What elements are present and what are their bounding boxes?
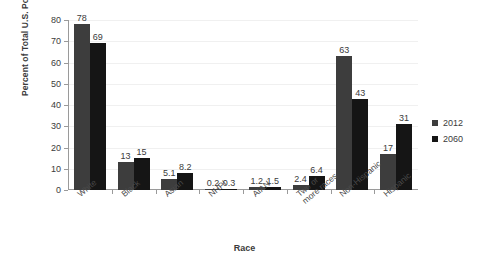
y-axis-tick-label: 40: [51, 100, 61, 110]
bar-value-label: 8.2: [179, 162, 192, 172]
legend-label: 2012: [443, 118, 463, 128]
bar-value-label: 31: [399, 113, 409, 123]
legend-swatch-icon: [432, 136, 438, 142]
y-axis-tick-label: 20: [51, 143, 61, 153]
bar-value-label: 5.1: [163, 168, 176, 178]
bar-value-label: 15: [137, 147, 147, 157]
y-axis-tick-label: 30: [51, 121, 61, 131]
bar-value-label: 63: [339, 45, 349, 55]
y-axis-tick-label: 50: [51, 79, 61, 89]
bar-value-label: 17: [383, 143, 393, 153]
y-axis-title: Percent of Total U.S. Population: [20, 0, 30, 115]
gridline: [68, 63, 418, 64]
y-axis-tick-label: 60: [51, 58, 61, 68]
legend-swatch-icon: [432, 120, 438, 126]
y-axis-tick-label: 0: [56, 185, 61, 195]
y-axis-tick-label: 80: [51, 15, 61, 25]
chart-legend: 20122060: [432, 118, 463, 150]
y-axis-tick-label: 10: [51, 164, 61, 174]
legend-item[interactable]: 2012: [432, 118, 463, 128]
plot-area: 01020304050607080786913155.18.20.20.31.2…: [68, 20, 418, 190]
bar-value-label: 78: [77, 13, 87, 23]
y-axis-tick-label: 70: [51, 36, 61, 46]
legend-item[interactable]: 2060: [432, 134, 463, 144]
bar: [74, 24, 90, 190]
bar-value-label: 69: [93, 32, 103, 42]
bar-chart: Percent of Total U.S. Population 0102030…: [0, 0, 489, 267]
bar: [90, 43, 106, 190]
bar-value-label: 13: [121, 151, 131, 161]
gridline: [68, 84, 418, 85]
y-axis-line: [68, 20, 69, 190]
bar-value-label: 43: [355, 88, 365, 98]
gridline: [68, 41, 418, 42]
bar: [336, 56, 352, 190]
x-axis-title: Race: [0, 243, 489, 253]
gridline: [68, 20, 418, 21]
y-axis-tick: [64, 190, 68, 191]
legend-label: 2060: [443, 134, 463, 144]
